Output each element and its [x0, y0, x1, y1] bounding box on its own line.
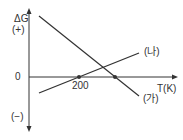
series-a-line	[39, 16, 139, 96]
series-b-intercept-marker	[77, 75, 81, 79]
series-a-label: (가)	[143, 94, 159, 104]
y-axis-label: ΔG	[14, 14, 28, 24]
y-axis-down-arrow-icon	[27, 126, 32, 132]
x-tick-200: 200	[72, 81, 89, 91]
series-a-intercept-marker	[113, 75, 117, 79]
series-b-line	[39, 53, 139, 93]
x-axis-arrow-icon	[172, 75, 178, 80]
y-positive-label: (+)	[12, 25, 25, 35]
series-b-label: (나)	[144, 47, 160, 57]
y-zero-label: 0	[15, 72, 21, 82]
x-axis-label: T(K)	[157, 84, 176, 94]
y-negative-label: (−)	[11, 112, 24, 122]
